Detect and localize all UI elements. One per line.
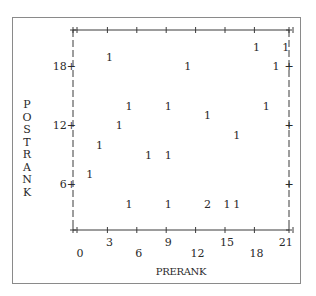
x-tick-label: 18: [249, 247, 263, 260]
y-tick-plus: +: [284, 178, 293, 191]
y-tick-plus: +: [284, 119, 293, 132]
x-tick-label: 12: [191, 247, 205, 260]
data-point: 1: [165, 149, 172, 162]
y-tick-plus: +: [284, 60, 293, 73]
y-tick-label: 18+: [53, 60, 76, 73]
data-points: 11111111111111111211: [86, 41, 289, 211]
y-label-letter: T: [23, 136, 31, 149]
x-axis-label: PRERANK: [156, 266, 207, 277]
y-label-letter: S: [23, 123, 31, 136]
data-point: 1: [282, 41, 289, 54]
data-point: 1: [253, 41, 260, 54]
scatter-plot: 6++12++18++ 036912151821 111111111111111…: [0, 0, 316, 296]
y-label-letter: N: [22, 173, 32, 186]
data-point: 1: [165, 100, 172, 113]
data-point: 1: [126, 100, 133, 113]
y-tick-label: 12+: [53, 119, 76, 132]
y-axis-label: POSTRANK: [22, 98, 32, 199]
data-point: 1: [224, 198, 231, 211]
data-point: 1: [126, 198, 133, 211]
y-label-letter: A: [22, 161, 32, 174]
y-label-letter: P: [23, 98, 31, 111]
x-tick-label: 9: [165, 236, 172, 249]
data-point: 2: [204, 198, 211, 211]
data-point: 1: [165, 198, 172, 211]
y-tick-label: 6+: [60, 178, 76, 191]
data-point: 1: [96, 139, 103, 152]
data-point: 1: [86, 168, 93, 181]
plot-axes: [70, 27, 293, 233]
data-point: 1: [116, 119, 123, 132]
data-point: 1: [145, 149, 152, 162]
x-tick-label: 6: [135, 247, 142, 260]
y-label-letter: O: [22, 111, 31, 124]
x-tick-label: 21: [279, 236, 293, 249]
data-point: 1: [184, 60, 191, 73]
data-point: 1: [273, 60, 280, 73]
x-tick-label: 15: [220, 236, 234, 249]
y-label-letter: K: [23, 186, 32, 199]
y-label-letter: R: [23, 148, 32, 161]
data-point: 1: [263, 100, 270, 113]
data-point: 1: [233, 198, 240, 211]
data-point: 1: [233, 129, 240, 142]
x-tick-label: 3: [106, 236, 113, 249]
x-tick-label: 0: [77, 247, 84, 260]
data-point: 1: [106, 51, 113, 64]
data-point: 1: [204, 109, 211, 122]
